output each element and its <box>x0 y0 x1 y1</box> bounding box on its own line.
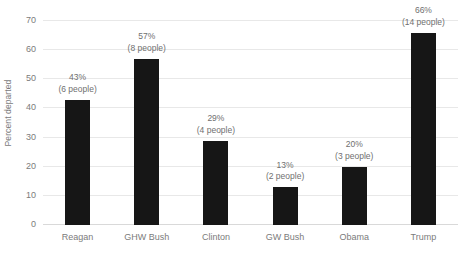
bar-people-text: (4 people) <box>197 125 235 137</box>
bar-clinton[interactable] <box>203 141 228 226</box>
bar-reagan[interactable] <box>65 100 90 225</box>
y-axis-title: Percent departed <box>0 0 16 225</box>
x-category-label-trump: Trump <box>411 232 437 242</box>
y-tick-label-50: 50 <box>26 73 36 83</box>
y-tick-label-60: 60 <box>26 44 36 54</box>
bar-trump[interactable] <box>411 33 436 225</box>
bar-percent-text: 57% <box>128 31 166 43</box>
bar-percent-text: 20% <box>335 139 373 151</box>
gridline-60: 60 <box>43 49 458 50</box>
bar-value-label-obama: 20%(3 people) <box>335 139 373 162</box>
bar-value-label-gw-bush: 13%(2 people) <box>266 160 304 183</box>
x-category-label-gw-bush: GW Bush <box>266 232 305 242</box>
gridline-0: 0 <box>43 224 458 225</box>
gridline-30: 30 <box>43 137 458 138</box>
bar-people-text: (2 people) <box>266 171 304 183</box>
y-tick-label-70: 70 <box>26 15 36 25</box>
y-tick-label-40: 40 <box>26 102 36 112</box>
x-category-label-reagan: Reagan <box>62 232 94 242</box>
gridline-20: 20 <box>43 166 458 167</box>
bar-chart: Percent departed 01020304050607043%(6 pe… <box>0 0 463 255</box>
y-tick-label-0: 0 <box>31 219 36 229</box>
bar-percent-text: 66% <box>402 5 445 17</box>
bar-value-label-reagan: 43%(6 people) <box>58 72 96 95</box>
y-tick-label-30: 30 <box>26 132 36 142</box>
bar-ghw-bush[interactable] <box>134 59 159 225</box>
bar-gw-bush[interactable] <box>273 187 298 225</box>
gridline-40: 40 <box>43 107 458 108</box>
x-category-label-obama: Obama <box>339 232 369 242</box>
bar-percent-text: 29% <box>197 113 235 125</box>
gridline-50: 50 <box>43 78 458 79</box>
y-tick-label-10: 10 <box>26 190 36 200</box>
plot-area: 01020304050607043%(6 people)57%(8 people… <box>43 21 458 225</box>
x-category-label-clinton: Clinton <box>202 232 230 242</box>
bar-obama[interactable] <box>342 167 367 225</box>
bar-value-label-trump: 66%(14 people) <box>402 5 445 28</box>
x-category-label-ghw-bush: GHW Bush <box>124 232 169 242</box>
bar-value-label-clinton: 29%(4 people) <box>197 113 235 136</box>
bar-people-text: (3 people) <box>335 151 373 163</box>
bar-people-text: (6 people) <box>58 84 96 96</box>
y-tick-label-20: 20 <box>26 161 36 171</box>
y-axis-title-text: Percent departed <box>3 79 13 146</box>
bar-people-text: (14 people) <box>402 17 445 29</box>
gridline-70: 70 <box>43 20 458 21</box>
bar-value-label-ghw-bush: 57%(8 people) <box>128 31 166 54</box>
gridline-10: 10 <box>43 195 458 196</box>
